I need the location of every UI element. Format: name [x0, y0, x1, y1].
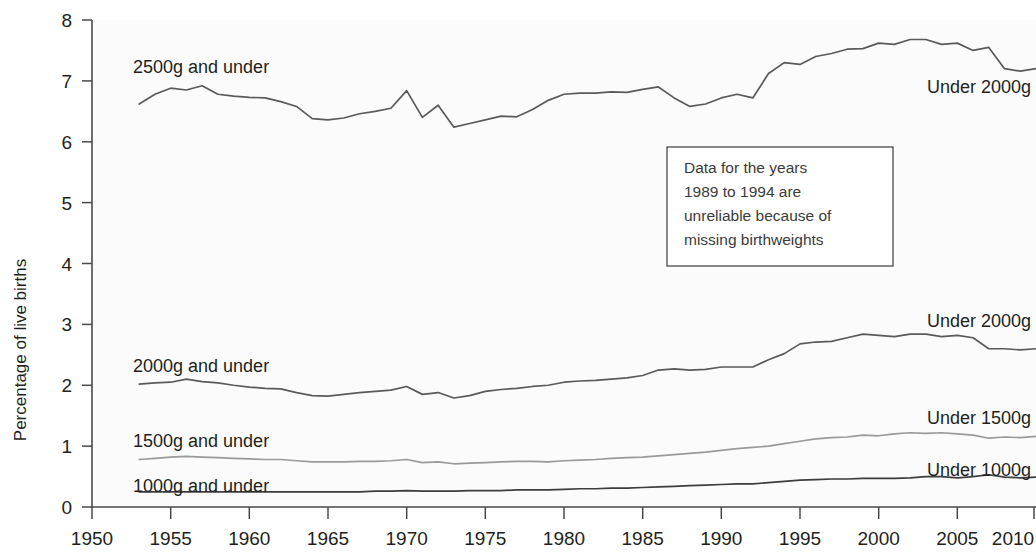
- y-axis-title: Percentage of live births: [11, 259, 30, 441]
- x-tick-1955: 1955: [150, 528, 192, 549]
- y-tick-5: 5: [61, 193, 72, 214]
- x-tick-2010: 2010: [992, 528, 1034, 549]
- x-tick-1985: 1985: [622, 528, 664, 549]
- y-tick-3: 3: [61, 314, 72, 335]
- note-line-1: Data for the years: [684, 159, 807, 176]
- y-axis-ticks: [82, 20, 92, 507]
- x-tick-1965: 1965: [307, 528, 349, 549]
- label-right-1000g: Under 1000g: [927, 460, 1031, 480]
- x-tick-2005: 2005: [936, 528, 978, 549]
- y-tick-0: 0: [61, 497, 72, 518]
- y-tick-2: 2: [61, 375, 72, 396]
- label-left-2500g: 2500g and under: [133, 57, 269, 77]
- note-line-2: 1989 to 1994 are: [684, 183, 801, 200]
- label-right-2000g: Under 2000g: [927, 311, 1031, 331]
- x-tick-1960: 1960: [228, 528, 270, 549]
- y-axis-tick-labels: 8 7 6 5 4 3 2 1 0: [61, 10, 72, 518]
- y-tick-1: 1: [61, 436, 72, 457]
- x-tick-1975: 1975: [464, 528, 506, 549]
- label-left-1000g: 1000g and under: [133, 476, 269, 496]
- x-tick-1995: 1995: [779, 528, 821, 549]
- y-tick-8: 8: [61, 10, 72, 31]
- x-axis-ticks: [92, 507, 1034, 519]
- x-tick-1970: 1970: [386, 528, 428, 549]
- x-tick-1980: 1980: [543, 528, 585, 549]
- line-chart: 8 7 6 5 4 3 2 1 0 Percentage of live bir…: [0, 0, 1036, 558]
- label-left-2000g: 2000g and under: [133, 356, 269, 376]
- chart-container: 8 7 6 5 4 3 2 1 0 Percentage of live bir…: [0, 0, 1036, 558]
- x-tick-1990: 1990: [700, 528, 742, 549]
- label-right-top: Under 2000g: [927, 77, 1031, 97]
- x-tick-2000: 2000: [858, 528, 900, 549]
- label-right-1500g: Under 1500g: [927, 408, 1031, 428]
- label-left-1500g: 1500g and under: [133, 431, 269, 451]
- note-line-3: unreliable because of: [684, 207, 832, 224]
- y-tick-7: 7: [61, 71, 72, 92]
- x-tick-1950: 1950: [71, 528, 113, 549]
- note-line-4: missing birthweights: [684, 231, 824, 248]
- y-tick-4: 4: [61, 254, 72, 275]
- y-tick-6: 6: [61, 132, 72, 153]
- data-reliability-note: Data for the years 1989 to 1994 are unre…: [667, 147, 893, 266]
- x-axis-tick-labels: 1950 1955 1960 1965 1970 1975 1980 1985 …: [71, 528, 1034, 549]
